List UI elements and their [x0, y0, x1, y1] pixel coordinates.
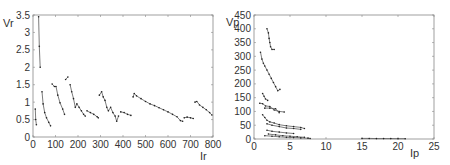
data-point [273, 49, 275, 51]
data-point [309, 138, 311, 140]
data-point [264, 117, 266, 119]
x-tick-label: 5 [287, 141, 293, 152]
data-point [209, 112, 211, 114]
data-series-line [267, 130, 294, 133]
data-point [278, 136, 280, 138]
x-tick-label: 100 [47, 139, 64, 150]
data-point [176, 116, 178, 118]
data-point [273, 109, 275, 111]
chart-canvas: 010020030040050060070080000.511.522.533.… [0, 0, 450, 165]
data-point [278, 126, 280, 128]
data-point [273, 122, 275, 124]
data-point [265, 105, 267, 107]
x-tick-label: 300 [92, 139, 109, 150]
data-point [307, 137, 309, 139]
data-point [300, 127, 302, 129]
data-point [266, 119, 268, 121]
data-point [300, 129, 302, 131]
data-point [36, 124, 38, 126]
data-point [376, 138, 378, 140]
data-point [130, 115, 132, 117]
data-point [118, 115, 120, 117]
data-point [42, 103, 44, 105]
data-point [149, 103, 151, 105]
data-point [266, 69, 268, 71]
data-point [270, 46, 272, 48]
data-point [182, 121, 184, 123]
data-point [62, 108, 64, 110]
data-point [264, 107, 266, 109]
x-tick-label: 500 [137, 139, 154, 150]
data-series-line [70, 85, 85, 116]
data-point [397, 138, 399, 140]
data-point [132, 96, 134, 98]
data-series-line [263, 115, 305, 129]
data-point [264, 65, 266, 67]
x-tick-label: 10 [320, 141, 332, 152]
data-point [110, 107, 112, 109]
data-point [172, 114, 174, 116]
data-point [183, 117, 185, 119]
data-series-line [184, 117, 193, 118]
data-point [269, 107, 271, 109]
data-point [180, 120, 182, 122]
data-point [46, 117, 48, 119]
data-point [275, 108, 277, 110]
data-point [99, 94, 101, 96]
data-point [65, 79, 67, 81]
y-tick-label: 0 [245, 134, 251, 145]
data-point [268, 133, 270, 135]
x-tick-label: 700 [182, 139, 199, 150]
data-point [286, 125, 288, 127]
y-tick-label: 50 [240, 120, 252, 131]
data-point [86, 110, 88, 112]
data-point [75, 107, 77, 109]
data-point [84, 115, 86, 117]
data-point [286, 137, 288, 139]
data-point [278, 112, 280, 114]
data-point [54, 86, 56, 88]
data-point [38, 16, 40, 18]
data-point [368, 138, 370, 140]
data-series-line [35, 109, 36, 125]
data-point [50, 125, 52, 127]
data-point [116, 121, 118, 123]
data-point [104, 100, 106, 102]
y-tick-label: 0 [24, 132, 30, 143]
data-point [57, 94, 59, 96]
data-point [145, 101, 147, 103]
x-tick-label: 800 [205, 139, 222, 150]
data-series-line [121, 112, 131, 116]
data-point [211, 114, 213, 116]
data-point [270, 78, 272, 80]
data-point [404, 138, 406, 140]
data-series-line [133, 93, 183, 121]
data-point [271, 124, 273, 126]
x-tick-label: 600 [160, 139, 177, 150]
data-point [289, 135, 291, 137]
data-point [199, 104, 201, 106]
data-point [202, 107, 204, 109]
data-point [64, 114, 66, 116]
data-point [140, 98, 142, 100]
left-plot-ylabel: Vr [3, 17, 14, 29]
y-tick-label: 1.5 [16, 79, 30, 90]
x-tick-label: 0 [251, 141, 257, 152]
data-point [41, 91, 43, 93]
right-plot-frame [254, 15, 434, 139]
data-point [271, 49, 273, 51]
data-point [293, 133, 295, 135]
data-point [67, 76, 69, 78]
data-point [259, 102, 261, 104]
right-plot-xlabel: Ip [410, 147, 419, 159]
data-series-line [260, 103, 284, 112]
data-point [194, 101, 196, 103]
right-plot-ticks: 0510152025050100150200250300350400450 [234, 10, 440, 153]
data-series-line [42, 92, 51, 126]
data-point [271, 130, 273, 132]
data-point [39, 66, 41, 68]
data-point [120, 111, 122, 113]
data-point [269, 106, 271, 108]
left-plot-ticks: 010020030040050060070080000.511.522.533.… [16, 10, 222, 151]
left-plot-xlabel: Ir [200, 150, 207, 162]
